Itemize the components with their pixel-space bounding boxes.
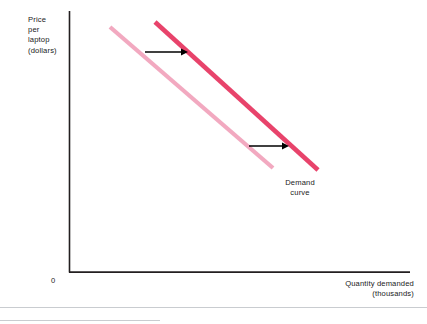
demand-curve-plot: [0, 0, 427, 324]
demand-curve-figure: Price per laptop (dollars) Quantity dema…: [0, 0, 427, 324]
origin-label: 0: [51, 276, 55, 286]
y-axis-label: Price per laptop (dollars): [28, 15, 57, 56]
shifted-demand-curve: [155, 22, 318, 170]
demand-curve-label: Demand curve: [258, 178, 342, 198]
page-divider-lower: [0, 320, 160, 321]
cropped-caption-remnant: [60, 0, 310, 5]
page-divider-upper: [0, 307, 427, 308]
x-axis-label: Quantity demanded (thousands): [345, 279, 414, 299]
upper-shift-arrow-icon: [145, 49, 188, 56]
original-demand-curve: [110, 27, 273, 168]
lower-shift-arrow-icon: [249, 143, 289, 150]
